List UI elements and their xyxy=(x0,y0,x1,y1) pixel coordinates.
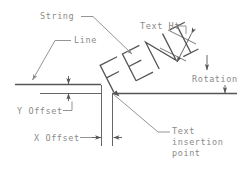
label-x-offset: X Offset xyxy=(34,133,80,143)
label-rotation: Rotation xyxy=(192,74,238,84)
label-insertion-point-line3: point xyxy=(172,148,201,159)
label-line: Line xyxy=(74,35,97,45)
insertion-point-leader xyxy=(113,91,171,133)
label-insertion-point-line2: insertion xyxy=(172,137,223,148)
label-y-offset: Y Offset xyxy=(17,106,63,116)
label-text-height: Text Ht xyxy=(140,21,180,31)
label-string: String xyxy=(40,11,74,21)
diagram-canvas: String Line Text Ht Rotation Y Offset X … xyxy=(0,0,242,169)
sample-text-geometry xyxy=(100,22,198,92)
line-leader xyxy=(33,41,72,81)
text-height-dimension xyxy=(160,26,196,62)
label-insertion-point-line1: Text xyxy=(172,126,195,137)
